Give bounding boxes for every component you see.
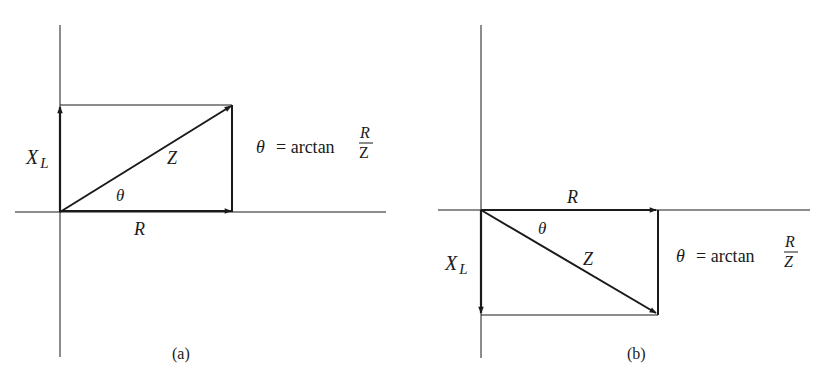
theta-label-a: θ — [116, 186, 124, 205]
svg-text:θ: θ — [676, 246, 685, 266]
svg-text:Z: Z — [784, 253, 794, 270]
z-label-a: Z — [167, 148, 178, 168]
theta-label-b: θ — [538, 219, 546, 238]
svg-text:= arctan: = arctan — [276, 137, 335, 157]
z-vector-b — [481, 210, 656, 313]
diagram-a: XL Z θ R θ = arctan R Z (a) — [15, 25, 386, 363]
r-label-b: R — [566, 187, 578, 207]
r-label-a: R — [133, 219, 145, 239]
svg-text:R: R — [784, 233, 795, 250]
diagram-b: R θ Z XL θ = arctan R Z (b) — [438, 25, 810, 363]
svg-text:= arctan: = arctan — [696, 246, 755, 266]
impedance-diagrams: XL Z θ R θ = arctan R Z (a) R θ Z XL θ =… — [0, 0, 819, 382]
xl-label-b: XL — [444, 252, 468, 277]
svg-text:θ: θ — [256, 137, 265, 157]
xl-label-a: XL — [25, 146, 49, 171]
z-vector-a — [60, 106, 231, 212]
caption-a: (a) — [172, 345, 190, 363]
z-label-b: Z — [583, 249, 594, 269]
svg-text:Z: Z — [359, 144, 369, 161]
formula-b: θ = arctan R Z — [676, 233, 798, 270]
caption-b: (b) — [627, 345, 646, 363]
formula-a: θ = arctan R Z — [256, 124, 373, 161]
svg-text:R: R — [359, 124, 370, 141]
